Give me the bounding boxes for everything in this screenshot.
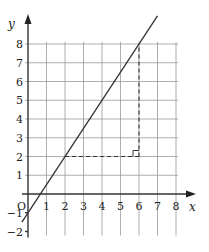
- graph-figure: 12345678−2−112345678 x y O: [0, 0, 209, 252]
- y-axis-arrow-icon: [25, 14, 32, 24]
- y-tick-label: −2: [7, 226, 23, 239]
- y-tick-label: 2: [16, 151, 23, 164]
- tick-labels: 12345678−2−112345678: [7, 38, 180, 239]
- x-tick-label: 6: [136, 200, 143, 213]
- x-tick-label: 4: [99, 200, 106, 213]
- y-axis-label: y: [7, 17, 15, 31]
- x-axis-label: x: [189, 200, 196, 214]
- x-axis-arrow-icon: [186, 191, 196, 198]
- x-tick-label: 5: [117, 200, 124, 213]
- coordinate-plane: 12345678−2−112345678 x y O: [0, 0, 209, 252]
- x-tick-label: 2: [62, 200, 69, 213]
- y-tick-label: 5: [16, 94, 23, 107]
- y-tick-label: 3: [16, 132, 23, 145]
- x-tick-label: 7: [154, 200, 161, 213]
- y-tick-label: 1: [16, 169, 23, 182]
- y-tick-label: 8: [16, 38, 23, 51]
- right-angle-marker: [133, 151, 139, 157]
- x-tick-label: 1: [43, 200, 50, 213]
- x-tick-label: 8: [173, 200, 180, 213]
- y-tick-label: 6: [16, 76, 23, 89]
- origin-label: O: [17, 200, 26, 213]
- x-tick-label: 3: [80, 200, 87, 213]
- y-tick-label: 7: [16, 57, 23, 70]
- y-tick-label: 4: [16, 113, 23, 126]
